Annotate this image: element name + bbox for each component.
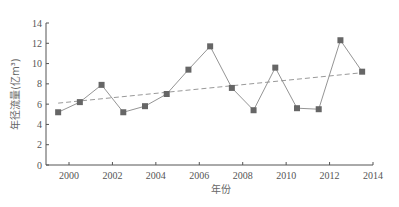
y-tick-label: 8 (37, 78, 42, 89)
data-point-marker (99, 82, 105, 88)
x-tick-label: 2010 (276, 170, 296, 181)
x-axis: 20002002200420062008201020122014 (46, 162, 383, 181)
data-point-marker (164, 91, 170, 97)
x-axis-title: 年份 (211, 183, 231, 195)
y-tick-label: 2 (37, 139, 42, 150)
runoff-line-chart: 02468101214 2000200220042006200820102012… (0, 0, 399, 207)
data-point-marker (337, 37, 343, 43)
data-point-marker (77, 99, 83, 105)
data-point-marker (120, 109, 126, 115)
y-tick-label: 12 (32, 38, 42, 49)
x-tick-label: 2004 (146, 170, 166, 181)
y-tick-label: 6 (37, 99, 42, 110)
data-point-marker (294, 105, 300, 111)
data-point-marker (272, 65, 278, 71)
data-point-marker (55, 109, 61, 115)
data-point-marker (359, 69, 365, 75)
data-point-marker (251, 107, 257, 113)
y-tick-label: 4 (37, 119, 42, 130)
x-tick-label: 2008 (233, 170, 253, 181)
data-point-marker (316, 106, 322, 112)
x-tick-label: 2012 (320, 170, 340, 181)
y-tick-label: 0 (37, 160, 42, 171)
y-tick-label: 14 (32, 18, 42, 29)
x-tick-label: 2014 (363, 170, 383, 181)
y-axis: 02468101214 (32, 18, 49, 171)
data-point-marker (185, 67, 191, 73)
y-axis-title: 年径流量(亿m³) (9, 58, 21, 130)
data-series (55, 37, 365, 115)
x-tick-label: 2002 (102, 170, 122, 181)
y-tick-label: 10 (32, 58, 42, 69)
data-point-marker (142, 103, 148, 109)
x-tick-label: 2000 (59, 170, 79, 181)
data-point-marker (229, 85, 235, 91)
x-tick-label: 2006 (189, 170, 209, 181)
data-point-marker (207, 43, 213, 49)
